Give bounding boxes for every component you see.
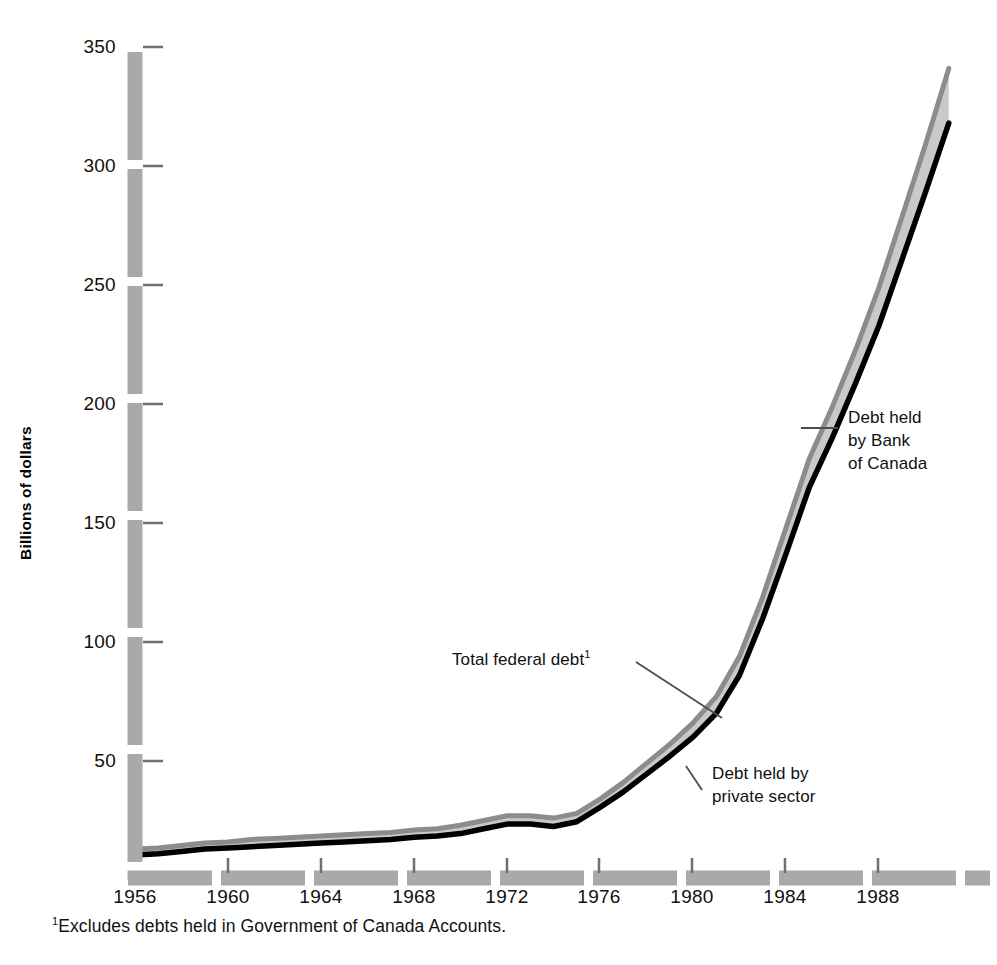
leader-debt-held-by-private-sector xyxy=(686,766,702,790)
x-tick-label-1956: 1956 xyxy=(90,886,180,908)
annotation-debt-held-by-private-sector: Debt held by private sector xyxy=(712,762,815,808)
footnote-text: Excludes debts held in Government of Can… xyxy=(58,916,506,936)
annotation-total-federal-debt-superscript: 1 xyxy=(584,648,590,660)
chart-canvas: Billions of dollars 350 300 250 200 150 … xyxy=(0,0,997,965)
y-tick-marks xyxy=(143,47,163,761)
x-tick-label-1972: 1972 xyxy=(462,886,552,908)
annotation-debt-held-by-bank-of-canada: Debt held by Bank of Canada xyxy=(848,406,927,475)
x-tick-label-1988: 1988 xyxy=(833,886,923,908)
annotation-total-federal-debt-text: Total federal debt xyxy=(452,650,584,669)
chart-plot-area xyxy=(0,0,997,965)
line-total-federal-debt xyxy=(135,68,949,849)
y-tick-label-200: 200 xyxy=(44,393,116,415)
y-axis-title: Billions of dollars xyxy=(14,270,38,560)
y-tick-label-350: 350 xyxy=(44,36,116,58)
y-tick-label-150: 150 xyxy=(44,512,116,534)
x-tick-label-1976: 1976 xyxy=(554,886,644,908)
x-tick-label-1960: 1960 xyxy=(183,886,273,908)
leader-total-federal-debt xyxy=(636,662,722,718)
x-tick-label-1984: 1984 xyxy=(740,886,830,908)
y-tick-label-250: 250 xyxy=(44,274,116,296)
x-tick-label-1968: 1968 xyxy=(369,886,459,908)
x-tick-label-1980: 1980 xyxy=(647,886,737,908)
line-debt-held-by-private-sector xyxy=(135,123,949,855)
annotation-total-federal-debt: Total federal debt1 xyxy=(452,648,590,671)
y-axis-title-text: Billions of dollars xyxy=(14,270,38,560)
x-tick-label-1964: 1964 xyxy=(276,886,366,908)
y-tick-label-100: 100 xyxy=(44,631,116,653)
y-tick-label-300: 300 xyxy=(44,155,116,177)
band-bank-of-canada xyxy=(135,68,949,855)
footnote: 1Excludes debts held in Government of Ca… xyxy=(52,916,506,937)
y-tick-label-50: 50 xyxy=(44,750,116,772)
